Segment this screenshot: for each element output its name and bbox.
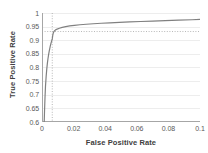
x-axis-tick-labels: 00.020.040.060.080.1: [0, 125, 208, 137]
x-axis-title: False Positive Rate: [42, 138, 200, 147]
gridlines: [42, 14, 200, 123]
y-axis-title: True Positive Rate: [8, 15, 17, 115]
x-tick-label: 0: [40, 125, 44, 132]
x-tick-label: 0.02: [67, 125, 80, 132]
x-tick-label: 0.08: [162, 125, 175, 132]
roc-chart: 0.60.650.70.750.80.850.90.951 00.020.040…: [0, 0, 208, 153]
x-tick-label: 0.06: [130, 125, 143, 132]
x-tick-label: 0.1: [195, 125, 204, 132]
plot-svg: [42, 13, 200, 122]
y-axis-title-wrap: True Positive Rate: [0, 0, 20, 153]
x-tick-label: 0.04: [99, 125, 112, 132]
plot-area: [42, 13, 200, 122]
roc-curve-line: [44, 19, 200, 122]
